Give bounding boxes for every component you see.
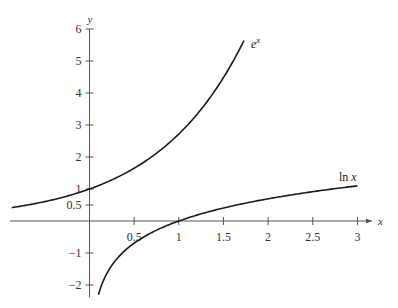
axes: x y [10,13,383,297]
x-tick-label: 1.5 [216,230,231,244]
curves [12,41,358,295]
ln-label-base: ln [339,170,351,184]
y-tick-label: −2 [69,278,82,292]
x-tick-label: 0.5 [127,230,142,244]
y-tick-label: 3 [76,118,82,132]
y-tick-label: 6 [76,22,82,36]
x-tick-label: 2.5 [305,230,320,244]
x-tick-label: 2 [265,230,271,244]
ln-label-var: x [350,170,357,184]
x-tick-label: 1 [176,230,182,244]
y-tick-label: −1 [69,246,82,260]
y-tick-label: 0.5 [67,198,82,212]
y-tick-label: 2 [76,150,82,164]
y-axis-label: y [87,13,93,25]
y-tick-label: 5 [76,54,82,68]
chart: x y 0.511.522.53 −2−10.5123456 ex ln x [0,0,398,308]
exp-curve-label: ex [251,35,260,51]
x-axis-label: x [377,215,383,227]
y-tick-label: 4 [76,86,82,100]
ln-curve-label: ln x [339,170,357,184]
x-tick-label: 3 [354,230,360,244]
x-axis-arrow-icon [366,219,372,224]
exp-label-sup: x [255,35,260,45]
exp-curve [12,41,244,208]
